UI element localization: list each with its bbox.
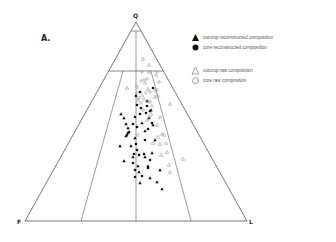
data-point xyxy=(164,141,167,144)
data-point xyxy=(122,159,125,162)
data-point xyxy=(147,167,150,170)
data-point xyxy=(149,91,152,94)
data-point xyxy=(168,170,171,173)
data-point xyxy=(149,159,152,162)
data-point xyxy=(151,105,154,108)
data-point xyxy=(134,176,137,179)
ternary-diagram xyxy=(0,0,336,242)
data-point xyxy=(134,116,137,119)
open-circle-icon xyxy=(191,76,200,85)
data-point xyxy=(143,153,146,156)
data-point xyxy=(146,105,149,108)
data-point xyxy=(181,157,184,160)
data-point xyxy=(158,115,161,118)
data-point xyxy=(140,102,143,105)
data-point xyxy=(137,170,140,173)
legend-item-core-raw: core raw composition xyxy=(191,76,246,85)
right-field-line xyxy=(151,71,191,221)
data-point xyxy=(146,78,149,81)
legend-label: outcrop reconstructed composition xyxy=(203,35,273,40)
data-point xyxy=(141,57,144,60)
data-point xyxy=(154,73,157,76)
filled-triangle-icon xyxy=(191,33,200,42)
data-point xyxy=(156,135,159,138)
data-point xyxy=(143,81,146,84)
data-point xyxy=(118,144,121,147)
legend-item-outcrop-raw: outcrop raw composition xyxy=(191,66,253,75)
data-points xyxy=(118,57,184,190)
data-point xyxy=(137,134,140,137)
vertex-label-f: F xyxy=(17,218,21,225)
data-point xyxy=(158,142,161,145)
data-point xyxy=(141,175,144,178)
data-point xyxy=(126,126,129,129)
data-point xyxy=(158,168,161,171)
legend-label: core raw composition xyxy=(203,78,246,83)
data-point xyxy=(129,144,132,147)
data-point xyxy=(124,122,127,125)
data-point xyxy=(136,104,139,107)
data-point xyxy=(136,164,139,167)
filled-circle-icon xyxy=(191,43,200,52)
data-point xyxy=(132,162,135,165)
legend-item-outcrop-reconstructed: outcrop reconstructed composition xyxy=(191,33,273,42)
data-point xyxy=(150,151,153,154)
data-point xyxy=(139,91,142,94)
panel-label: A. xyxy=(41,34,50,43)
data-point xyxy=(135,143,138,146)
data-point xyxy=(159,153,162,156)
data-point xyxy=(140,80,143,83)
data-point xyxy=(135,95,138,98)
data-point xyxy=(122,116,125,119)
data-point xyxy=(160,187,163,190)
data-point xyxy=(138,154,141,157)
data-point xyxy=(133,153,136,156)
data-point xyxy=(140,93,143,96)
data-point xyxy=(147,128,150,131)
data-point xyxy=(134,169,137,172)
vertex-label-q: Q xyxy=(133,12,138,19)
data-point xyxy=(139,113,142,116)
data-point xyxy=(148,176,151,179)
data-point xyxy=(136,149,139,152)
data-point xyxy=(167,163,170,166)
data-point xyxy=(119,112,122,115)
data-point xyxy=(149,110,152,113)
data-point xyxy=(158,81,161,84)
vertex-label-l: L xyxy=(249,218,253,225)
data-point xyxy=(151,141,154,144)
data-point xyxy=(140,121,143,124)
data-point xyxy=(151,122,154,125)
data-point xyxy=(127,132,130,135)
data-point xyxy=(144,139,147,142)
data-point xyxy=(131,155,134,158)
data-point xyxy=(145,92,148,95)
data-point xyxy=(125,86,128,89)
data-point xyxy=(149,112,152,115)
data-point xyxy=(168,102,171,105)
data-point xyxy=(165,150,168,153)
legend-label: core reconstructed composition xyxy=(203,45,267,50)
data-point xyxy=(143,155,146,158)
data-point xyxy=(132,123,135,126)
data-point xyxy=(147,63,150,66)
data-point xyxy=(152,87,155,90)
legend-item-core-reconstructed: core reconstructed composition xyxy=(191,43,267,52)
data-point xyxy=(155,180,158,183)
data-point xyxy=(142,109,145,112)
data-point xyxy=(146,87,149,90)
data-point xyxy=(143,79,146,82)
data-point xyxy=(145,112,148,115)
left-field-line xyxy=(81,71,123,221)
data-point xyxy=(138,181,141,184)
data-point xyxy=(153,95,156,98)
data-point xyxy=(143,129,146,132)
data-point xyxy=(155,123,158,126)
data-point xyxy=(136,126,139,129)
legend-label: outcrop raw composition xyxy=(203,68,253,73)
data-point xyxy=(153,138,156,141)
data-point xyxy=(143,98,146,101)
open-triangle-icon xyxy=(191,66,200,75)
